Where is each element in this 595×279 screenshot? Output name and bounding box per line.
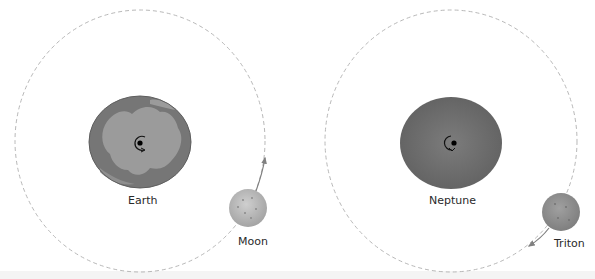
earth-system [15,10,267,272]
neptune-system [325,10,580,272]
moon-body [229,189,267,227]
moon-orbit-arrow-icon [256,158,265,191]
north-pole-dot-icon [451,140,456,145]
earth-globe [89,96,191,188]
north-pole-dot-icon [137,140,142,145]
moon-label: Moon [238,235,268,248]
orbit-diagram [0,0,595,279]
triton-body [542,193,580,231]
neptune-label: Neptune [429,194,476,207]
triton-orbit-arrow-icon [529,228,549,246]
earth-label: Earth [128,194,158,207]
triton-label: Triton [554,237,585,250]
neptune-globe [400,97,502,189]
